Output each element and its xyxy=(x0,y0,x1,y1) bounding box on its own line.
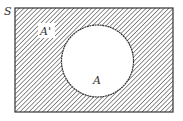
universal-set-label: S xyxy=(4,5,12,18)
venn-diagram: S A' A xyxy=(0,0,183,121)
set-a-label: A xyxy=(92,74,101,87)
complement-label: A' xyxy=(39,25,51,38)
